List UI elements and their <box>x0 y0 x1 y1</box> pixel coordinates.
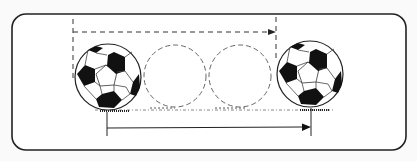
soccer-ball-end-icon <box>277 41 343 107</box>
diagram-canvas <box>0 0 417 161</box>
soccer-ball-start-icon <box>75 44 141 110</box>
diagram-frame <box>12 14 406 150</box>
soccer-distance-diagram <box>0 0 417 161</box>
